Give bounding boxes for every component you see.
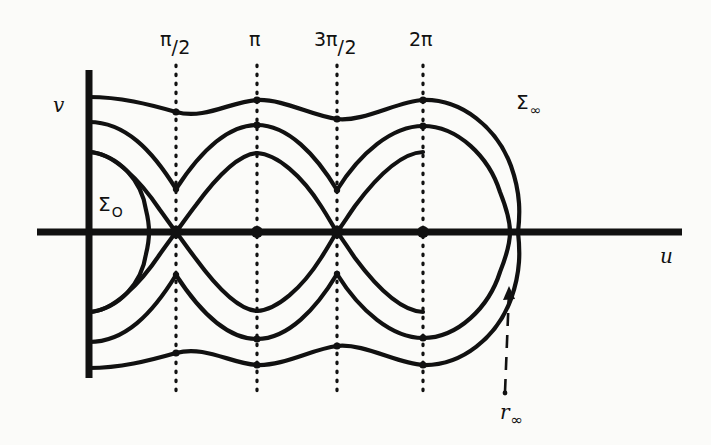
guide-dot [173,186,179,192]
guide-dot [253,96,260,103]
guide-dot [334,271,340,277]
sigma-infinity-base: Σ [516,90,529,114]
tick-label-pi-over-2: π/2 [160,30,191,57]
diagram-canvas [0,0,711,445]
curve-sigma-infinity-upper [89,97,519,232]
guide-dot [172,349,179,356]
guide-dot [419,96,426,103]
tick-numerator: π [160,28,171,50]
r-infinity-base: r [500,400,510,424]
node-saddle-three-pi-over-2 [331,226,344,239]
r-infinity-arrow [503,286,515,395]
sigma-zero-base: Σ [98,192,111,216]
tick-numerator: π [249,28,260,50]
guide-dot [173,272,179,278]
v-axis-label: v [53,95,64,115]
sigma-zero-label: ΣO [98,194,123,219]
u-axis-label: u [660,246,673,266]
guide-dot [419,334,426,341]
r-infinity-arrow-tail-dot [503,391,508,396]
guide-dot [253,361,260,368]
r-infinity-label: r∞ [500,402,523,428]
guide-dot [172,108,179,115]
node-saddle-pi-over-2 [170,226,183,239]
tick-label-two-pi: 2π [409,30,433,57]
tick-numerator: 2π [409,28,433,50]
r-infinity-subscript: ∞ [510,411,524,429]
tick-numerator: 3π [314,28,338,50]
sigma-zero-subscript: O [111,204,123,220]
guide-dot [334,187,340,193]
sigma-infinity-label: Σ∞ [516,92,541,117]
tick-label-three-pi-over-2: 3π/2 [314,30,357,57]
guide-dot [333,342,340,349]
guide-dot [419,361,426,368]
tick-denominator: 2 [344,36,357,58]
curve-sigma-infinity-lower [89,232,519,368]
node-center-two-pi [417,226,429,238]
phase-portrait-figure: π/2 π 3π/2 2π v u ΣO Σ∞ r∞ [0,0,711,445]
tick-denominator: 2 [178,36,191,58]
node-center-pi [251,226,263,238]
sigma-infinity-subscript: ∞ [529,102,542,118]
guide-dot [253,335,260,342]
guide-dot [253,121,260,128]
guide-dot [419,122,426,129]
guide-dot [333,115,340,122]
tick-label-pi: π [249,30,260,57]
